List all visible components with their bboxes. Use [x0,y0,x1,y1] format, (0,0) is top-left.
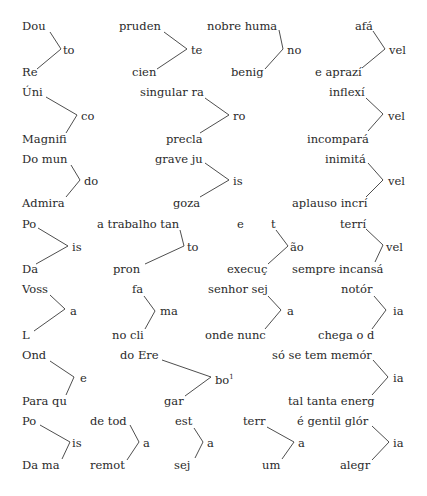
fragment-top: inflexí [329,86,365,99]
fragment-top: só se tem memór [272,349,372,362]
fragment-top: terr [243,415,265,428]
fragment-top: Po [22,415,36,428]
fragment-bottom: Da [22,263,38,276]
fragment-top: Voss [22,283,48,296]
fragment-top: senhor sej [208,283,268,296]
bracket-line [36,228,68,264]
fragment-top: nobre huma [207,20,277,33]
fragment-bottom: goza [173,197,200,210]
fragment-top: afá [355,20,373,33]
bracket-line [145,230,184,264]
fragment-top: Úni [22,86,43,99]
fragment-joint: ia [393,437,404,450]
bracket-line [162,360,211,396]
bracket-line [372,426,389,460]
fragment-bottom: chega o d [318,329,374,342]
fragment-joint: ia [393,305,404,318]
bracket-line [200,98,229,133]
fragment-bottom: gar [164,395,184,408]
fragment-top: pruden [119,20,161,33]
bracket-line [372,360,388,395]
fragment-joint: e [80,372,87,385]
fragment-top: t [271,218,276,231]
fragment-joint: vel [388,175,405,188]
fragment-bottom: Para qu [22,395,67,408]
fragment-joint: ão [290,241,304,254]
fragment-bottom: no cli [112,329,144,342]
fragment-joint: to [63,44,75,57]
fragment-joint: to [187,241,199,254]
fragment-top: a trabalho tan [97,218,179,231]
fragment-bottom: Da ma [22,459,60,472]
fragment-top: notór [341,283,372,296]
footnote-marker: 1 [229,373,233,381]
fragment-bottom: alegr [340,459,370,472]
fragment-bottom: Re [22,66,37,79]
bracket-line [366,98,383,131]
fragment-bottom: tal tanta energ [288,395,375,408]
bracket-line [157,32,187,69]
fragment-joint: no [287,44,301,57]
bracket-line [144,296,155,329]
fragment-bottom: incompará [307,133,369,146]
fragment-bottom: L [22,329,30,342]
fragment-joint: is [72,437,82,450]
bracket-line [267,427,294,459]
bracket-line [200,163,229,197]
fragment-top: Do mun [22,153,68,166]
fragment-bottom: remot [90,459,125,472]
fragment-top: Po [22,218,36,231]
fragment-joint: bo1 [215,371,234,387]
bracket-line [268,230,288,264]
fragment-top: est [175,415,192,428]
fragment-joint: a [298,437,305,450]
bracket-line [265,296,281,329]
fragment-joint: a [287,305,294,318]
fragment-top: fa [132,283,143,296]
bracket-line [40,425,70,459]
fragment-bottom: execuç [227,263,267,276]
fragment-joint: do [84,175,98,188]
bracket-line [127,425,139,460]
fragment-top: de tod [90,415,127,428]
fragment-joint: ro [233,110,245,123]
fragment-top: do Ere [120,349,159,362]
fragment-bottom: sej [174,459,190,472]
fragment-top: singular ra [140,86,204,99]
fragment-joint: vel [386,241,403,254]
fragment-bottom: benig [231,66,264,79]
fragment-bottom: onde nunc [205,329,266,342]
fragment-top: terrí [340,218,366,231]
fragment-bottom: pron [113,263,140,276]
fragment-bottom: aplauso incrí [292,197,367,210]
fragment-bottom: Magnifi [22,133,67,146]
bracket-line [366,163,383,197]
fragment-joint: ma [160,305,178,318]
bracket-line [362,31,385,68]
fragment-bottom: Admira [22,197,65,210]
fragment-top: é gentil glór [297,415,368,428]
fragment-loose: e [237,218,244,231]
fragment-joint: a [207,437,214,450]
fragment-joint: ia [393,372,404,385]
bracket-line [50,361,74,395]
fragment-bottom: um [262,459,280,472]
bracket-line [34,295,65,331]
fragment-top: Ond [22,349,46,362]
bracket-line [372,296,386,329]
fragment-joint: a [70,305,77,318]
fragment-joint: is [233,175,243,188]
bracket-line [265,30,283,69]
fragment-joint: te [191,44,202,57]
fragment-top: grave ju [155,153,203,166]
bracket-line [37,32,61,69]
fragment-bottom: e aprazí [315,66,362,79]
fragment-top: Dou [22,20,46,33]
fragment-bottom: sempre incansá [292,263,383,276]
fragment-joint: vel [389,44,406,57]
bracket-line [66,165,80,197]
fragment-top: inimitá [325,153,366,166]
bracket-line [46,97,77,133]
fragment-bottom: precla [166,133,203,146]
bracket-line [194,428,203,458]
